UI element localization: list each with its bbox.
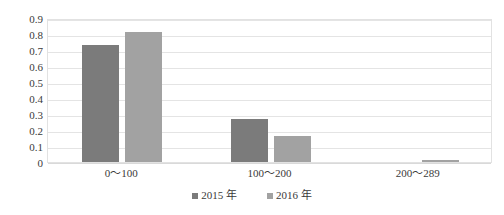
chart-legend: 2015 年2016 年 xyxy=(0,189,504,202)
y-tick-label: 0.2 xyxy=(0,126,43,137)
y-tick-label: 0.7 xyxy=(0,46,43,57)
x-tick-label: 200～289 xyxy=(396,166,440,180)
y-tick-label: 0 xyxy=(0,158,43,169)
y-tick-label: 0.1 xyxy=(0,142,43,153)
y-tick-label: 0.9 xyxy=(0,14,43,25)
bar-2016 xyxy=(125,32,162,162)
legend-swatch-icon xyxy=(267,193,273,199)
bar-chart-figure: 0.90.80.70.60.50.40.30.20.10 0～100100～20… xyxy=(0,0,504,215)
y-tick-label: 0.6 xyxy=(0,62,43,73)
bar-2015 xyxy=(82,45,119,162)
gridline xyxy=(48,163,491,164)
y-tick-label: 0.4 xyxy=(0,94,43,105)
bar-2016 xyxy=(422,160,459,162)
y-tick-label: 0.5 xyxy=(0,78,43,89)
legend-label: 2015 年 xyxy=(201,189,237,202)
bar-2016 xyxy=(274,136,311,162)
bar-2015 xyxy=(231,119,268,162)
plot-area xyxy=(47,19,492,163)
x-axis: 0～100100～200200～289 xyxy=(47,166,492,184)
y-tick-label: 0.3 xyxy=(0,110,43,121)
legend-item[interactable]: 2016 年 xyxy=(267,189,312,202)
y-tick-label: 0.8 xyxy=(0,30,43,41)
y-axis: 0.90.80.70.60.50.40.30.20.10 xyxy=(0,19,43,163)
x-tick-label: 100～200 xyxy=(248,166,292,180)
x-tick-label: 0～100 xyxy=(105,166,138,180)
bars-layer xyxy=(48,20,491,162)
legend-label: 2016 年 xyxy=(276,189,312,202)
legend-swatch-icon xyxy=(192,193,198,199)
legend-item[interactable]: 2015 年 xyxy=(192,189,237,202)
